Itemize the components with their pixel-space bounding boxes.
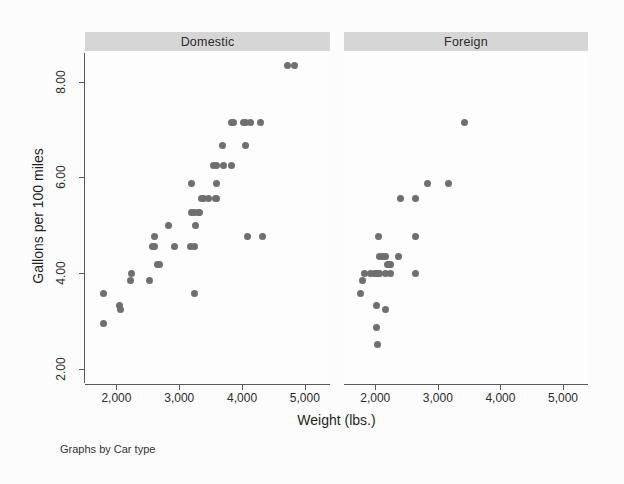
data-point xyxy=(191,243,198,250)
data-point xyxy=(165,222,172,229)
panel-header-foreign: Foreign xyxy=(344,32,588,51)
data-point xyxy=(247,119,254,126)
data-point xyxy=(291,62,298,69)
graph-caption: Graphs by Car type xyxy=(60,443,155,455)
data-point xyxy=(424,180,431,187)
data-point xyxy=(373,324,380,331)
x-tick-label: 2,000 xyxy=(345,391,405,405)
data-point xyxy=(100,290,107,297)
y-tick-label: 6.00 xyxy=(48,169,74,185)
data-point xyxy=(375,233,382,240)
data-point xyxy=(196,209,203,216)
y-tick-mark xyxy=(79,82,84,83)
data-point xyxy=(375,270,382,277)
data-point xyxy=(192,222,199,229)
panel-header-foreign-label: Foreign xyxy=(444,35,488,49)
y-axis-line xyxy=(84,53,85,383)
data-point xyxy=(128,270,135,277)
data-point xyxy=(146,277,153,284)
data-point xyxy=(412,233,419,240)
data-point xyxy=(412,270,419,277)
x-tick-label: 4,000 xyxy=(470,391,530,405)
data-point xyxy=(382,253,389,260)
data-point xyxy=(127,277,134,284)
x-tick-label: 2,000 xyxy=(86,391,146,405)
data-point xyxy=(188,180,195,187)
x-axis-line-domestic xyxy=(85,384,330,385)
data-point xyxy=(357,290,364,297)
data-point xyxy=(219,142,226,149)
data-point xyxy=(382,306,389,313)
data-point xyxy=(230,119,237,126)
y-tick-label: 4.00 xyxy=(48,265,74,281)
x-tick-mark xyxy=(242,385,243,390)
x-tick-mark xyxy=(179,385,180,390)
panel-header-domestic-label: Domestic xyxy=(181,35,235,49)
scatter-panel-foreign xyxy=(344,53,588,383)
data-point xyxy=(151,233,158,240)
x-tick-label: 5,000 xyxy=(533,391,593,405)
x-tick-mark xyxy=(116,385,117,390)
x-tick-label: 3,000 xyxy=(149,391,209,405)
data-point xyxy=(259,233,266,240)
data-point xyxy=(156,261,163,268)
data-point xyxy=(151,243,158,250)
data-point xyxy=(359,277,366,284)
data-point xyxy=(387,261,394,268)
x-axis-line-foreign xyxy=(344,384,588,385)
data-point xyxy=(117,306,124,313)
data-point xyxy=(257,119,264,126)
x-tick-label: 3,000 xyxy=(408,391,468,405)
x-tick-mark xyxy=(305,385,306,390)
data-point xyxy=(461,119,468,126)
x-tick-mark xyxy=(500,385,501,390)
data-point xyxy=(220,162,227,169)
y-tick-mark xyxy=(79,369,84,370)
data-point xyxy=(244,233,251,240)
data-point xyxy=(382,270,389,277)
data-point xyxy=(228,162,235,169)
data-point xyxy=(213,195,220,202)
data-point xyxy=(445,180,452,187)
y-axis-title: Gallons per 100 miles xyxy=(30,106,46,326)
x-tick-label: 5,000 xyxy=(275,391,335,405)
data-point xyxy=(397,195,404,202)
y-tick-label: 8.00 xyxy=(48,74,74,90)
chart-page: Domestic Foreign 2.004.006.008.002,0003,… xyxy=(0,0,624,484)
data-point xyxy=(213,180,220,187)
y-tick-mark xyxy=(79,177,84,178)
x-axis-title: Weight (lbs.) xyxy=(85,412,588,428)
x-tick-mark xyxy=(563,385,564,390)
y-tick-label: 2.00 xyxy=(48,361,74,377)
data-point xyxy=(412,195,419,202)
data-point xyxy=(284,62,291,69)
x-tick-mark xyxy=(438,385,439,390)
data-point xyxy=(395,253,402,260)
data-point xyxy=(191,290,198,297)
x-tick-label: 4,000 xyxy=(212,391,272,405)
data-point xyxy=(374,341,381,348)
y-tick-mark xyxy=(79,273,84,274)
data-point xyxy=(100,320,107,327)
data-point xyxy=(171,243,178,250)
panel-header-domestic: Domestic xyxy=(85,32,330,51)
x-tick-mark xyxy=(375,385,376,390)
data-point xyxy=(373,302,380,309)
data-point xyxy=(242,142,249,149)
scatter-panel-domestic xyxy=(85,53,330,383)
